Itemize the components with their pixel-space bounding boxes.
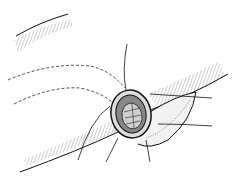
illustration xyxy=(0,0,239,182)
upper-tissue-band xyxy=(14,14,74,52)
dashed-guide-lines xyxy=(8,65,125,104)
line-art-drawing xyxy=(0,0,239,182)
